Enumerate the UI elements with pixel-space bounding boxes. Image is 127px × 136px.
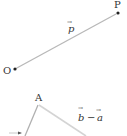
edge-a-left <box>25 105 38 136</box>
label-a-vector: a <box>97 112 103 123</box>
vector-p-figure: O P → p <box>3 0 121 76</box>
label-o: O <box>3 65 11 76</box>
point-o <box>13 67 16 70</box>
label-vector-p: p <box>68 23 75 34</box>
arrow-stub-head <box>18 132 22 135</box>
label-minus: − <box>87 112 95 123</box>
vector-p-line <box>15 14 116 69</box>
label-p: P <box>114 0 121 10</box>
label-a: A <box>34 92 43 103</box>
label-b-arrow: → <box>78 104 83 111</box>
label-b: b <box>78 112 84 123</box>
point-p <box>116 11 119 14</box>
triangle-fragment: A → b − → a <box>9 92 103 136</box>
vector-diagram: O P → p A → b − → a <box>0 0 127 136</box>
